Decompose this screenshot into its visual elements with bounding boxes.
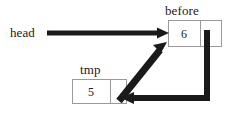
arrow-before-next-to-tmp	[121, 30, 207, 104]
arrow-tmp-next-to-before	[119, 42, 167, 101]
arrow-layer	[0, 0, 228, 115]
linked-list-diagram: before 6 tmp 5 head	[0, 0, 228, 115]
arrow-head-to-before	[47, 28, 169, 39]
